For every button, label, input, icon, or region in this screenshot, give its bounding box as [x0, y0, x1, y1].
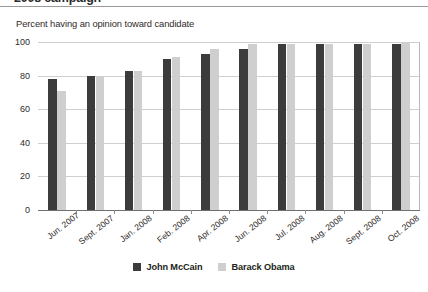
legend-label: Barack Obama	[231, 262, 294, 272]
bar-mccain	[392, 44, 401, 210]
bar-group	[344, 42, 382, 210]
bar-obama	[210, 49, 219, 210]
bar-mccain	[239, 49, 248, 210]
legend-label: John McCain	[146, 262, 202, 272]
bar-series-container	[38, 42, 420, 210]
bar-mccain	[87, 76, 96, 210]
x-tick-label: Jun. 2007	[45, 213, 77, 241]
bar-obama	[96, 77, 105, 210]
bar-group	[229, 42, 267, 210]
bar-group	[191, 42, 229, 210]
bar-mccain	[354, 44, 363, 210]
legend-item-mccain[interactable]: John McCain	[133, 262, 202, 272]
header-divider	[0, 6, 428, 7]
cropped-page-title: 2008 campaign	[14, 0, 274, 5]
bar-obama	[172, 57, 181, 210]
y-tick-label: 20	[20, 171, 30, 181]
legend-swatch-icon	[133, 263, 141, 271]
bar-group	[267, 42, 305, 210]
bar-group	[76, 42, 114, 210]
x-axis-labels: Jun. 2007Sept. 2007Jan. 2008Feb. 2008Apr…	[38, 213, 420, 257]
y-tick-label: 0	[25, 205, 30, 215]
y-tick-label: 100	[15, 37, 30, 47]
bar-obama	[57, 91, 66, 210]
bar-mccain	[125, 71, 134, 210]
bar-group	[114, 42, 152, 210]
x-tick-label: Jul. 2008	[94, 213, 307, 292]
bar-group	[38, 42, 76, 210]
bar-group	[382, 42, 420, 210]
bar-mccain	[163, 59, 172, 210]
bar-obama	[287, 44, 296, 210]
plot-area	[38, 42, 420, 210]
chart-subtitle: Percent having an opinion toward candida…	[16, 18, 194, 29]
bar-mccain	[278, 44, 287, 210]
bar-mccain	[316, 44, 325, 210]
bar-obama	[363, 44, 372, 210]
chart-figure: 2008 campaign Percent having an opinion …	[0, 0, 428, 292]
legend-item-obama[interactable]: Barack Obama	[218, 262, 294, 272]
y-tick-label: 80	[20, 71, 30, 81]
y-tick-label: 60	[20, 104, 30, 114]
bar-mccain	[201, 54, 210, 210]
bar-obama	[401, 42, 410, 210]
legend-swatch-icon	[218, 263, 226, 271]
y-axis: 020406080100	[0, 42, 36, 210]
bar-obama	[248, 44, 257, 210]
bar-group	[305, 42, 343, 210]
bar-obama	[134, 71, 143, 210]
y-tick-label: 40	[20, 138, 30, 148]
bar-obama	[325, 44, 334, 210]
bar-mccain	[48, 79, 57, 210]
bar-group	[153, 42, 191, 210]
chart-legend: John McCainBarack Obama	[0, 262, 428, 272]
